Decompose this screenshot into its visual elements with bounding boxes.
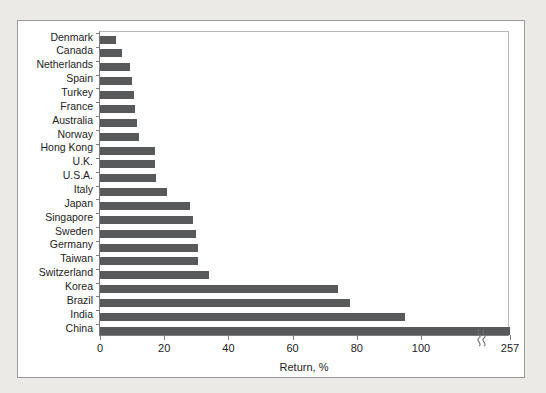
bar [100, 160, 155, 168]
bar [100, 119, 137, 127]
y-axis-tick [96, 158, 100, 159]
x-axis-tick-label: 20 [158, 342, 170, 354]
bar-row: China [100, 324, 508, 338]
bar-row: France [100, 102, 508, 116]
y-axis-label-australia: Australia [52, 114, 93, 128]
bar-row: Denmark [100, 33, 508, 47]
bar [100, 63, 130, 71]
bar-row: Taiwan [100, 255, 508, 269]
x-axis-tick-label: 80 [351, 342, 363, 354]
bar-row: Sweden [100, 227, 508, 241]
y-axis-label-germany: Germany [50, 238, 93, 252]
x-axis-tick [421, 335, 422, 340]
bar-row: Italy [100, 186, 508, 200]
x-axis-tick [357, 335, 358, 340]
y-axis-label-brazil: Brazil [67, 294, 93, 308]
bar-row: Turkey [100, 88, 508, 102]
bar-row: Spain [100, 75, 508, 89]
bar [100, 313, 405, 321]
figure-panel: DenmarkCanadaNetherlandsSpainTurkeyFranc… [17, 20, 525, 378]
bar-row: Norway [100, 130, 508, 144]
bar [100, 299, 350, 307]
bar [100, 202, 190, 210]
y-axis-tick [96, 102, 100, 103]
y-axis-label-singapore: Singapore [45, 211, 93, 225]
bar [100, 105, 135, 113]
y-axis-tick [96, 213, 100, 214]
bar [100, 244, 198, 252]
bar [100, 216, 193, 224]
y-axis-label-korea: Korea [65, 280, 93, 294]
bar [100, 285, 338, 293]
bar-row: Canada [100, 47, 508, 61]
x-axis-tick-label: 257 [501, 342, 519, 354]
y-axis-label-u-k: U.K. [73, 155, 93, 169]
y-axis-tick [96, 227, 100, 228]
y-axis-tick [96, 47, 100, 48]
bar-row: Japan [100, 199, 508, 213]
bar [100, 77, 132, 85]
bar-row: Germany [100, 241, 508, 255]
y-axis-tick [96, 241, 100, 242]
bar [100, 257, 198, 265]
bar-row: Netherlands [100, 61, 508, 75]
axis-break-icon [472, 327, 490, 349]
y-axis-tick [96, 144, 100, 145]
y-axis-tick [96, 255, 100, 256]
y-axis-tick [96, 283, 100, 284]
bar-row: Hong Kong [100, 144, 508, 158]
y-axis-label-u-s-a: U.S.A. [63, 169, 93, 183]
bar-row: Singapore [100, 213, 508, 227]
bar-row: U.S.A. [100, 172, 508, 186]
y-axis-tick [96, 61, 100, 62]
x-axis-tick-label: 40 [222, 342, 234, 354]
x-axis-tick-label: 0 [97, 342, 103, 354]
x-axis-tick [293, 335, 294, 340]
y-axis-tick [96, 130, 100, 131]
y-axis-tick [96, 116, 100, 117]
bar-row: Brazil [100, 296, 508, 310]
bar [100, 327, 510, 335]
bar [100, 49, 122, 57]
y-axis-tick [96, 33, 100, 34]
y-axis-label-norway: Norway [57, 128, 93, 142]
x-axis-tick [228, 335, 229, 340]
bar [100, 230, 196, 238]
bar-row: India [100, 310, 508, 324]
bar-row: Korea [100, 283, 508, 297]
bar [100, 188, 167, 196]
bar-row: U.K. [100, 158, 508, 172]
y-axis-label-canada: Canada [56, 44, 93, 58]
x-axis-tick [510, 335, 511, 340]
x-axis-tick-label: 100 [412, 342, 430, 354]
bar-row: Switzerland [100, 269, 508, 283]
y-axis-tick [96, 324, 100, 325]
y-axis-tick [96, 88, 100, 89]
y-axis-label-netherlands: Netherlands [36, 58, 93, 72]
y-axis-tick [96, 75, 100, 76]
y-axis-label-japan: Japan [64, 197, 93, 211]
bar [100, 36, 116, 44]
bar [100, 174, 156, 182]
plot-area: DenmarkCanadaNetherlandsSpainTurkeyFranc… [99, 31, 509, 336]
x-axis-tick-label: 60 [286, 342, 298, 354]
bar [100, 91, 134, 99]
x-axis-tick [100, 335, 101, 340]
bar-row: Australia [100, 116, 508, 130]
x-axis-title: Return, % [100, 361, 508, 373]
y-axis-tick [96, 199, 100, 200]
y-axis-label-switzerland: Switzerland [39, 266, 93, 280]
bar [100, 147, 155, 155]
y-axis-tick [96, 172, 100, 173]
bar [100, 271, 209, 279]
y-axis-label-spain: Spain [66, 72, 93, 86]
y-axis-label-italy: Italy [74, 183, 93, 197]
y-axis-label-taiwan: Taiwan [60, 252, 93, 266]
y-axis-label-denmark: Denmark [50, 31, 93, 45]
x-axis-tick [164, 335, 165, 340]
y-axis-tick [96, 269, 100, 270]
y-axis-tick [96, 186, 100, 187]
y-axis-label-hong-kong: Hong Kong [40, 141, 93, 155]
bar [100, 133, 139, 141]
y-axis-tick [96, 310, 100, 311]
